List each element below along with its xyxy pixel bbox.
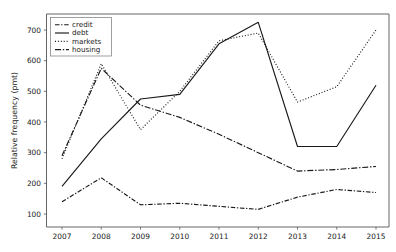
legend-label-housing: housing	[72, 45, 100, 54]
x-tick-label-2013: 2013	[288, 232, 307, 241]
y-tick-label-700: 700	[27, 26, 41, 35]
series-line-housing	[62, 68, 376, 171]
x-tick-label-2014: 2014	[327, 232, 346, 241]
x-tick-label-2008: 2008	[92, 232, 111, 241]
line-chart: 7006005004003002001002007200820092010201…	[0, 0, 396, 252]
y-tick-label-200: 200	[27, 179, 41, 188]
x-tick-label-2015: 2015	[367, 232, 386, 241]
legend: creditdebtmarketshousing	[51, 18, 112, 57]
y-tick-label-600: 600	[27, 56, 41, 65]
y-tick-label-500: 500	[27, 87, 41, 96]
x-tick-label-2012: 2012	[249, 232, 268, 241]
y-tick-label-100: 100	[27, 210, 41, 219]
y-axis-title: Relative frequency (pmt)	[10, 72, 19, 169]
plot-area-svg: 7006005004003002001002007200820092010201…	[0, 0, 396, 252]
y-tick-label-300: 300	[27, 148, 41, 157]
series-line-credit	[62, 178, 376, 210]
x-tick-label-2010: 2010	[170, 232, 189, 241]
y-tick-label-400: 400	[27, 118, 41, 127]
x-tick-label-2009: 2009	[131, 232, 150, 241]
x-tick-label-2011: 2011	[210, 232, 229, 241]
x-tick-label-2007: 2007	[53, 232, 72, 241]
